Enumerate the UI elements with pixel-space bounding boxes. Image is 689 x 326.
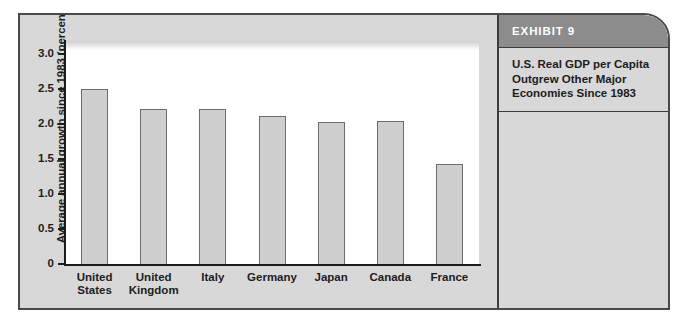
exhibit-header: EXHIBIT 9: [499, 15, 668, 47]
y-axis-line: [64, 40, 66, 265]
bar: [318, 122, 345, 264]
y-axis-tick-mark: [58, 53, 65, 55]
y-axis-tick-label-wrap: 2.0: [20, 117, 54, 129]
y-axis-tick-label: 2.0: [26, 117, 54, 129]
exhibit-title-block: U.S. Real GDP per Capita Outgrew Other M…: [499, 47, 668, 112]
x-axis-category-label: Germany: [242, 271, 301, 284]
y-axis-tick-label-wrap: 2.5: [20, 82, 54, 94]
y-axis-tick-mark: [58, 193, 65, 195]
y-axis-tick-label: 0: [26, 257, 54, 269]
exhibit-frame: Average annual growth since 1983 (percen…: [18, 13, 670, 310]
x-axis-category-label: Italy: [183, 271, 242, 284]
y-axis-tick-label-wrap: 0.5: [20, 222, 54, 234]
y-axis-tick-label-wrap: 1.0: [20, 187, 54, 199]
y-axis-tick-label: 1.0: [26, 187, 54, 199]
y-axis-tick-mark: [58, 263, 65, 265]
y-axis-tick-mark: [58, 158, 65, 160]
bar: [140, 109, 167, 264]
x-axis-category-label: France: [420, 271, 479, 284]
x-axis-category-label: United Kingdom: [124, 271, 183, 297]
x-axis-line: [64, 264, 481, 266]
bar: [81, 89, 108, 264]
y-axis-tick-mark: [58, 123, 65, 125]
bar: [377, 121, 404, 264]
y-axis-tick-mark: [58, 88, 65, 90]
y-axis-tick-label: 1.5: [26, 152, 54, 164]
exhibit-title: U.S. Real GDP per Capita Outgrew Other M…: [512, 57, 658, 101]
y-axis-tick-mark: [58, 228, 65, 230]
exhibit-number-label: EXHIBIT 9: [512, 25, 575, 37]
y-axis-tick-label: 2.5: [26, 82, 54, 94]
y-axis-tick-label: 0.5: [26, 222, 54, 234]
y-axis-tick-label: 3.0: [26, 47, 54, 59]
chart-region: Average annual growth since 1983 (percen…: [20, 15, 497, 308]
y-axis-tick-label-wrap: 1.5: [20, 152, 54, 164]
x-axis-category-label: Canada: [361, 271, 420, 284]
x-axis-category-label: Japan: [302, 271, 361, 284]
exhibit-panel: EXHIBIT 9 U.S. Real GDP per Capita Outgr…: [497, 15, 668, 308]
bar: [436, 164, 463, 264]
bar: [259, 116, 286, 264]
y-axis-tick-label-wrap: 0: [20, 257, 54, 269]
y-axis-tick-label-wrap: 3.0: [20, 47, 54, 59]
x-axis-category-label: United States: [65, 271, 124, 297]
bar: [199, 109, 226, 264]
exhibit-body-area: [499, 112, 668, 311]
